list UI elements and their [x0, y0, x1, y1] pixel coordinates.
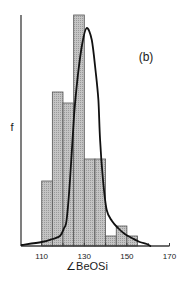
x-tick-label-110: 110 — [35, 252, 48, 261]
histogram-bar-130-135 — [84, 159, 95, 246]
panel-label: (b) — [139, 50, 154, 64]
histogram-bar-110-115 — [42, 181, 53, 246]
histogram-chart: 110130150170 f ∠BeOSi (b) — [0, 0, 187, 282]
x-axis-label: ∠BeOSi — [66, 260, 108, 272]
histogram-bar-125-130 — [74, 15, 85, 246]
histogram-bars — [42, 15, 138, 246]
histogram-bar-135-140 — [95, 159, 106, 246]
x-tick-label-170: 170 — [163, 252, 177, 261]
x-tick-label-150: 150 — [120, 252, 134, 261]
histogram-bar-115-120 — [52, 92, 63, 246]
y-axis-label: f — [10, 121, 14, 133]
histogram-bar-120-125 — [63, 103, 74, 246]
histogram-bar-140-145 — [106, 236, 117, 246]
